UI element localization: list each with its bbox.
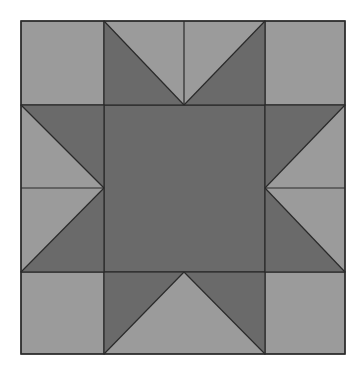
corner-square-top-right	[265, 21, 345, 105]
star-point-top	[104, 21, 265, 105]
star-point-right	[265, 105, 345, 272]
corner-square-top-left	[21, 21, 104, 105]
star-point-left	[21, 105, 104, 272]
corner-square-bottom-left	[21, 272, 104, 354]
center-square	[104, 105, 265, 272]
quilt-block-diagram	[0, 0, 364, 375]
corner-square-bottom-right	[265, 272, 345, 354]
star-point-bottom	[104, 272, 265, 354]
